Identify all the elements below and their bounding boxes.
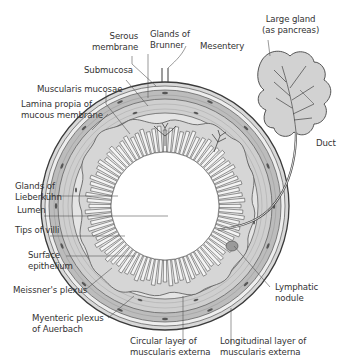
label-longitudinal-layer: Longitudinal layer of muscularis externa [220,336,306,357]
label-lumen: Lumen [17,205,46,216]
label-glands-of-brunner: Glands of Brunner [150,29,190,50]
villus [219,204,241,207]
label-tips-of-villi: Tips of villi [15,225,59,236]
lumen [111,152,219,260]
label-large-gland: Large gland (as pancreas) [262,14,319,35]
label-myenteric-plexus: Myenteric plexus of Auerbach [32,313,104,334]
diagram-artwork [0,0,342,359]
label-submucosa: Submucosa [84,65,133,76]
label-lamina-propria: Lamina propia of mucous membrane [21,99,103,120]
large-gland [258,51,331,136]
label-surface-epithelium: Surface epithelium [28,250,73,271]
villus [163,260,166,282]
label-mesentery: Mesentery [200,41,244,52]
label-serous-membrane: Serous membrane [92,31,138,52]
villus [89,204,111,207]
label-duct: Duct [316,138,336,149]
intestine-cross-section-diagram: Serous membrane Glands of Brunner Mesent… [0,0,342,359]
label-glands-of-lieberkuhn: Glands of Lieberkühn [15,181,62,202]
mesentery [162,68,168,82]
label-lymphatic-nodule: Lymphatic nodule [275,282,318,303]
label-muscularis-mucosae: Muscularis mucosae [37,84,122,95]
label-meissners-plexus: Meissner's plexus [13,285,87,296]
lymphatic-nodule [226,241,238,251]
label-circular-layer: Circular layer of muscularis externa [130,336,210,357]
